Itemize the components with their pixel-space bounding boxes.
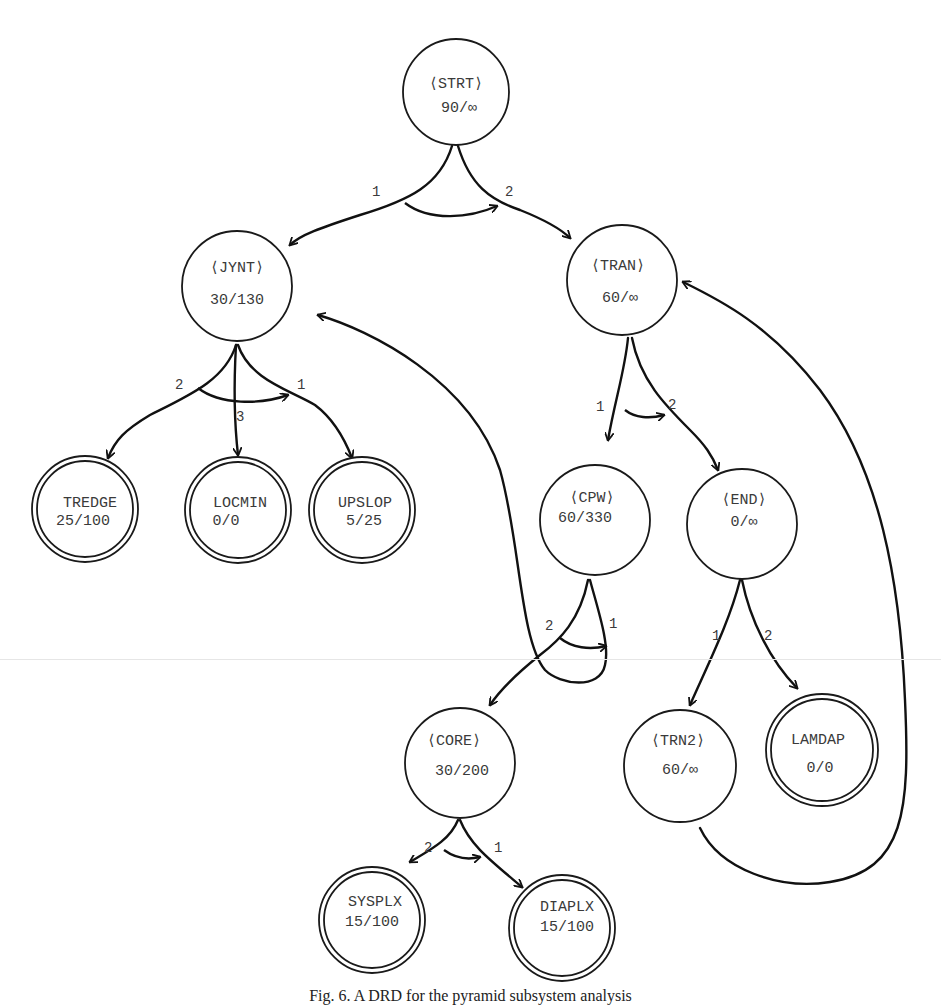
node-trn2-name: ⟨TRN2⟩ bbox=[651, 733, 705, 750]
node-cpw: ⟨CPW⟩ 60/330 bbox=[540, 465, 650, 575]
edge-label-strt-tran: 2 bbox=[505, 184, 513, 200]
node-trn2-value: 60/∞ bbox=[662, 762, 698, 779]
node-core: ⟨CORE⟩ 30/200 bbox=[405, 708, 515, 818]
node-upslop: UPSLOP 5/25 bbox=[309, 457, 415, 563]
and-arc-jynt bbox=[198, 388, 288, 402]
and-arc-cpw bbox=[560, 638, 606, 648]
node-lamdap-name: LAMDAP bbox=[791, 732, 845, 749]
edge-label-jynt-tredge: 2 bbox=[175, 377, 183, 393]
edge-label-jynt-upslop: 1 bbox=[297, 377, 305, 393]
node-trn2: ⟨TRN2⟩ 60/∞ bbox=[624, 710, 736, 822]
node-sysplx: SYSPLX 15/100 bbox=[319, 867, 425, 973]
and-arc-tran bbox=[625, 410, 664, 417]
node-strt-name: ⟨STRT⟩ bbox=[429, 76, 483, 93]
edge-label-core-sysplx: 2 bbox=[424, 840, 432, 856]
node-tredge: TREDGE 25/100 bbox=[32, 456, 138, 562]
node-tredge-name: TREDGE bbox=[63, 495, 117, 512]
edge-strt-jynt bbox=[290, 146, 452, 245]
node-upslop-name: UPSLOP bbox=[338, 495, 392, 512]
node-cpw-name: ⟨CPW⟩ bbox=[569, 490, 614, 507]
node-diaplx-name: DIAPLX bbox=[540, 899, 594, 916]
edge-jynt-tredge bbox=[108, 345, 236, 458]
edge-label-strt-jynt: 1 bbox=[372, 184, 380, 200]
edge-label-end-trn2: 1 bbox=[712, 628, 720, 644]
node-locmin-name: LOCMIN bbox=[213, 495, 267, 512]
scan-line bbox=[0, 659, 941, 660]
node-diaplx: DIAPLX 15/100 bbox=[509, 875, 615, 981]
node-lamdap: LAMDAP 0/0 bbox=[766, 694, 878, 806]
edge-cpw-core bbox=[490, 580, 588, 705]
edge-label-cpw-jynt: 1 bbox=[609, 616, 617, 632]
edge-tran-cpw bbox=[608, 338, 628, 440]
node-tran-value: 60/∞ bbox=[602, 290, 638, 307]
and-arc-strt bbox=[405, 203, 497, 216]
node-tran: ⟨TRAN⟩ 60/∞ bbox=[567, 225, 677, 335]
node-cpw-value: 60/330 bbox=[558, 510, 612, 527]
edge-core-diaplx bbox=[460, 820, 522, 887]
edge-core-sysplx bbox=[410, 820, 458, 862]
node-strt: ⟨STRT⟩ 90/∞ bbox=[403, 39, 509, 145]
node-core-value: 30/200 bbox=[435, 763, 489, 780]
node-end: ⟨END⟩ 0/∞ bbox=[687, 469, 797, 579]
node-locmin-value: 0/0 bbox=[212, 513, 239, 530]
edge-label-end-lamdap: 2 bbox=[764, 628, 772, 644]
edge-label-jynt-locmin: 3 bbox=[236, 409, 244, 425]
node-core-name: ⟨CORE⟩ bbox=[427, 733, 481, 750]
node-tran-name: ⟨TRAN⟩ bbox=[591, 258, 645, 275]
node-strt-value: 90/∞ bbox=[441, 100, 477, 117]
edge-label-core-diaplx: 1 bbox=[494, 840, 502, 856]
figure-caption: Fig. 6. A DRD for the pyramid subsystem … bbox=[0, 987, 941, 1005]
and-arc-core bbox=[444, 850, 480, 858]
node-sysplx-name: SYSPLX bbox=[348, 894, 402, 911]
node-jynt: ⟨JYNT⟩ 30/130 bbox=[182, 231, 292, 341]
node-jynt-name: ⟨JYNT⟩ bbox=[210, 260, 264, 277]
edge-label-tran-cpw: 1 bbox=[596, 399, 604, 415]
node-tredge-value: 25/100 bbox=[56, 513, 110, 530]
node-upslop-value: 5/25 bbox=[346, 513, 382, 530]
node-jynt-value: 30/130 bbox=[210, 292, 264, 309]
node-sysplx-value: 15/100 bbox=[345, 914, 399, 931]
node-locmin: LOCMIN 0/0 bbox=[185, 457, 291, 563]
edge-strt-tran bbox=[458, 146, 570, 238]
node-lamdap-value: 0/0 bbox=[806, 760, 833, 777]
node-end-name: ⟨END⟩ bbox=[721, 492, 766, 509]
edge-label-cpw-core: 2 bbox=[545, 618, 553, 634]
edge-label-tran-end: 2 bbox=[668, 397, 676, 413]
node-end-value: 0/∞ bbox=[730, 514, 757, 531]
node-diaplx-value: 15/100 bbox=[540, 919, 594, 936]
